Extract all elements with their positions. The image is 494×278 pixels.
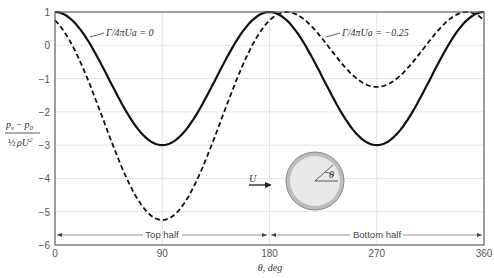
x-tick-label: 360 <box>476 248 493 259</box>
svg-text:½: ½ <box>8 137 16 148</box>
svg-text:Bottom half: Bottom half <box>353 229 401 240</box>
grid-lines <box>55 12 484 245</box>
x-tick-labels: 090180270360 <box>52 248 493 259</box>
y-tick-label: −4 <box>39 173 51 184</box>
cylinder-inset: U θ <box>249 152 344 210</box>
svg-text:Γ/4πUa = 0: Γ/4πUa = 0 <box>105 27 153 38</box>
y-tick-label: −1 <box>39 74 51 85</box>
y-tick-label: −3 <box>39 140 51 151</box>
bottom-half-range: Bottom half <box>271 229 482 240</box>
series0-annotation: Γ/4πUa = 0 <box>90 27 153 38</box>
y-tick-label: −2 <box>39 107 51 118</box>
y-tick-label: −6 <box>39 240 51 251</box>
svg-text:ρU2: ρU2 <box>16 136 33 148</box>
svg-text:Top half: Top half <box>145 229 179 240</box>
svg-text:Γ/4πUa = −0.25: Γ/4πUa = −0.25 <box>341 27 409 38</box>
x-axis-label: θ, deg <box>258 262 282 273</box>
x-tick-label: 180 <box>261 248 278 259</box>
y-tick-label: 0 <box>44 40 50 51</box>
x-tick-label: 0 <box>52 248 58 259</box>
pressure-coefficient-chart: 10−1−2−3−4−5−6 090180270360 ps − p0 ½ ρU… <box>0 0 494 278</box>
top-half-range: Top half <box>57 229 267 240</box>
x-tick-label: 270 <box>368 248 385 259</box>
y-axis-label: ps − p0 ½ ρU2 <box>5 119 40 148</box>
y-tick-label: −5 <box>39 207 51 218</box>
series1-annotation: Γ/4πUa = −0.25 <box>326 27 409 38</box>
svg-text:U: U <box>249 173 257 184</box>
y-tick-labels: 10−1−2−3−4−5−6 <box>39 7 51 251</box>
x-tick-label: 90 <box>157 248 169 259</box>
svg-text:ps − p0: ps − p0 <box>5 119 33 132</box>
y-tick-label: 1 <box>44 7 50 18</box>
svg-text:θ: θ <box>329 169 334 180</box>
